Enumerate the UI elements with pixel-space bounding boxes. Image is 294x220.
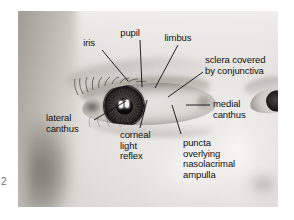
figure-number: 2 — [1, 176, 7, 187]
annotation-label-medial-canthus: medialcanthus — [213, 99, 269, 120]
iris-region — [103, 85, 144, 126]
annotation-label-limbus: limbus — [158, 33, 198, 44]
corneal-light-reflex-secondary — [125, 100, 129, 108]
annotation-label-sclera-covered-by-conjunctiva: sclera coveredby conjunctiva — [205, 55, 293, 76]
annotation-label-iris: iris — [76, 38, 102, 49]
annotation-label-lateral-canthus: lateralcanthus — [46, 113, 94, 134]
annotation-label-pupil: pupil — [114, 28, 146, 39]
palpebral-fissure — [81, 81, 216, 128]
figure-root: 2 — [0, 0, 294, 220]
annotation-label-puncta-overlying-nasolacrimal-ampulla: punctaoverlyingnasolacrimalampulla — [183, 138, 251, 180]
corneal-light-reflex-primary — [119, 101, 123, 108]
medial-canthus-caruncle — [196, 93, 215, 112]
annotation-label-corneal-light-reflex: corneallightreflex — [120, 130, 162, 162]
